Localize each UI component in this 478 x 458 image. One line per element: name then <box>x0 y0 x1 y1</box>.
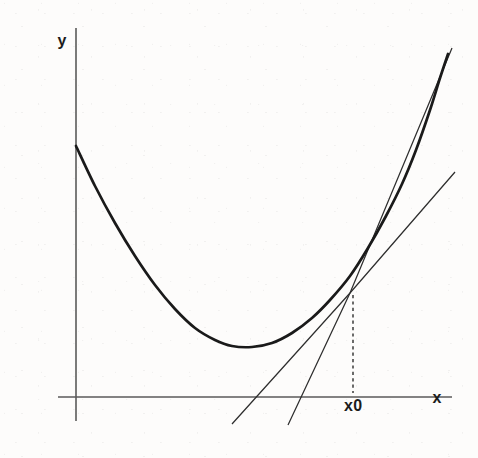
y-axis-label: y <box>58 33 67 49</box>
secant-line <box>288 48 452 425</box>
parabola-curve <box>76 54 448 347</box>
plot-svg <box>0 0 478 458</box>
x-axis-label: x <box>433 390 442 406</box>
tangent-line <box>232 172 455 424</box>
figure-canvas: y x x0 <box>0 0 478 458</box>
tangent-point-label: x0 <box>344 398 362 414</box>
